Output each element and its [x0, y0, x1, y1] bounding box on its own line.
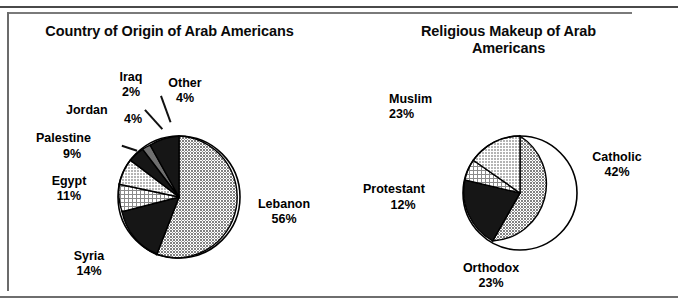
pie-label-protestant: Protestant — [363, 182, 425, 197]
pie-label-lebanon-name: Lebanon — [258, 197, 310, 211]
pie-label-palestine: Palestine — [36, 131, 91, 146]
pie-label-jordan-percent: 4% — [124, 112, 142, 126]
pie-label-egypt-name: Egypt — [52, 174, 87, 188]
pie-label-jordan-percent-wrap: 4% — [124, 112, 142, 127]
chart-title-religion-line2: Americans — [339, 40, 678, 57]
pie-svg-country — [116, 134, 242, 260]
pie-label-orthodox-name: Orthodox — [463, 261, 519, 275]
pie-label-syria-name: Syria — [74, 249, 105, 263]
pie-label-egypt: Egypt 11% — [38, 174, 100, 203]
pie-label-palestine-name: Palestine — [36, 131, 91, 145]
pie-svg-religion — [461, 134, 579, 252]
pie-label-orthodox: Orthodox 23% — [449, 261, 533, 290]
pie-label-syria-percent: 14% — [60, 264, 118, 279]
pie-religious-makeup — [461, 134, 579, 252]
pie-label-catholic: Catholic 42% — [579, 150, 655, 179]
chart-religious-makeup: Religious Makeup of Arab Americans — [339, 0, 678, 307]
pie-label-iraq-name: Iraq — [120, 70, 143, 84]
pie-label-muslim-name: Muslim — [389, 92, 432, 106]
pie-label-protestant-name: Protestant — [363, 182, 425, 196]
pie-label-muslim: Muslim 23% — [389, 92, 432, 121]
pie-label-muslim-percent: 23% — [389, 107, 432, 122]
pie-label-syria: Syria 14% — [60, 249, 118, 278]
leader-line-jordan — [144, 109, 163, 129]
pie-label-catholic-name: Catholic — [592, 150, 641, 164]
pie-label-protestant-percent-wrap: 12% — [363, 198, 443, 213]
chart-title-country: Country of Origin of Arab Americans — [0, 23, 339, 40]
pie-label-jordan-name: Jordan — [66, 103, 108, 117]
pie-label-iraq: Iraq 2% — [108, 70, 154, 99]
pie-label-orthodox-percent: 23% — [449, 276, 533, 291]
chart-country-of-origin: Country of Origin of Arab Americans — [0, 0, 339, 307]
pie-label-lebanon-percent: 56% — [246, 212, 322, 227]
pie-label-palestine-percent: 9% — [63, 147, 81, 161]
pie-label-other-percent: 4% — [158, 91, 212, 106]
figure-page: Country of Origin of Arab Americans — [0, 0, 678, 307]
pie-label-egypt-percent: 11% — [38, 189, 100, 204]
pie-country-of-origin — [116, 134, 242, 260]
pie-label-palestine-percent-wrap: 9% — [36, 147, 108, 162]
pie-label-other: Other 4% — [158, 76, 212, 105]
pie-label-iraq-percent: 2% — [108, 85, 154, 100]
chart-title-religion-line1: Religious Makeup of Arab — [339, 23, 678, 40]
pie-label-protestant-percent: 12% — [390, 198, 415, 212]
pie-label-other-name: Other — [168, 76, 201, 90]
pie-label-jordan: Jordan — [66, 103, 108, 118]
pie-label-lebanon: Lebanon 56% — [246, 197, 322, 226]
pie-label-catholic-percent: 42% — [579, 165, 655, 180]
